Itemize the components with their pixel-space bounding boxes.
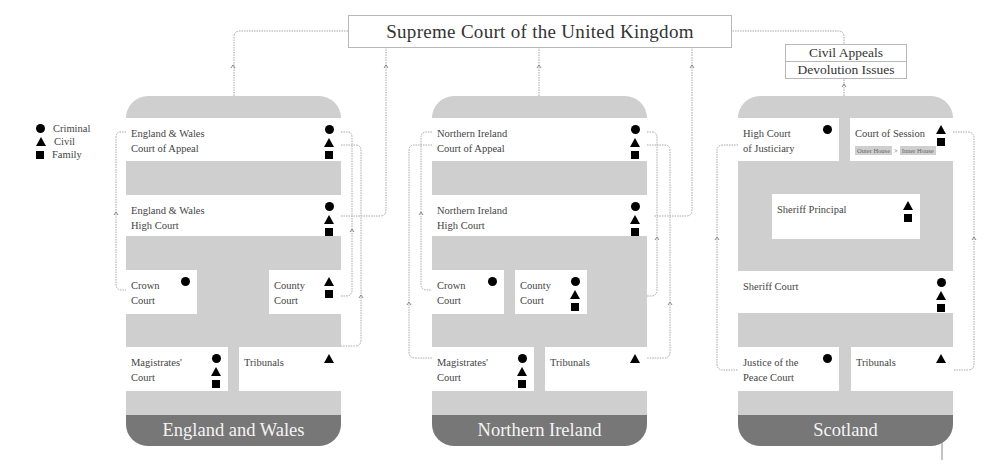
civil-icon [324,138,334,147]
family-icon [212,380,220,388]
ni-county-court: CountyCourt [515,270,587,314]
devolution-issues-label: Devolution Issues [786,61,906,78]
criminal-icon [631,202,640,211]
criminal-icon [518,354,527,363]
civil-icon [630,215,640,224]
criminal-icon [325,125,334,134]
jurisdiction-type-icons [630,125,640,163]
court-label-line: England & Wales [131,203,205,218]
triangle-icon [36,137,46,146]
criminal-icon [325,202,334,211]
jurisdiction-type-icons [903,201,913,226]
square-icon [36,151,44,159]
jurisdiction-type-icons [630,202,640,240]
legend-item-criminal: Criminal [36,122,90,135]
jurisdiction-type-icons [630,354,640,367]
court-label: Tribunals [856,355,896,370]
jurisdiction-type-icons [570,277,580,315]
court-label-line: Court [520,293,551,308]
criminal-icon [823,125,832,134]
court-label-line: Sheriff Principal [777,202,847,217]
court-label-line: Court [437,293,466,308]
jurisdiction-type-icons [936,354,946,367]
jurisdiction-type-icons [936,278,946,316]
court-label-line: Tribunals [244,355,284,370]
ew-high-court: England & WalesHigh Court [126,195,341,236]
family-icon [325,151,333,159]
court-label-line: High Court [437,218,507,233]
ew-court-of-appeal: England & WalesCourt of Appeal [126,118,341,161]
legend-item-civil: Civil [36,135,90,148]
ni-crown-court: CrownCourt [432,270,504,314]
court-label-line: Tribunals [856,355,896,370]
jurisdiction-type-icons [324,125,334,163]
court-label-line: Sheriff Court [743,279,799,294]
court-label-line: Crown [437,278,466,293]
panel-northern-ireland: Northern IrelandCourt of Appeal Northern… [432,96,647,446]
legend: Criminal Civil Family [36,122,90,161]
civil-icon [630,354,640,363]
jurisdiction-type-icons [822,125,832,138]
sc-high-court-justiciary: High Courtof Justiciary [738,118,839,161]
civil-icon [517,367,527,376]
court-label: CrownCourt [131,278,160,308]
criminal-icon [212,354,221,363]
family-icon [518,380,526,388]
court-label-line: Magistrates' [437,355,488,370]
court-label: High Courtof Justiciary [743,126,795,156]
family-icon [325,228,333,236]
court-label-line: Peace Court [743,370,798,385]
sc-sheriff-court: Sheriff Court [738,271,953,313]
court-label: Justice of thePeace Court [743,355,798,385]
ew-title-banner: England and Wales [126,415,341,446]
jurisdiction-type-icons [517,354,527,392]
jurisdiction-type-icons [936,125,946,150]
sc-court-of-session: Court of Session Outer House > Inner Hou… [850,118,953,161]
court-label: Northern IrelandHigh Court [437,203,507,233]
sc-justice-of-peace-court: Justice of thePeace Court [738,347,839,391]
jurisdiction-type-icons [180,277,190,290]
criminal-icon [571,277,580,286]
court-label-line: County [520,278,551,293]
panel-scotland: High Courtof Justiciary Court of Session… [738,96,953,446]
criminal-icon [823,354,832,363]
criminal-icon [488,277,497,286]
court-label-line: Crown [131,278,160,293]
court-of-session-houses: Outer House > Inner House [855,146,936,155]
court-label-line: Justice of the [743,355,798,370]
court-label-line: Court [131,370,182,385]
civil-icon [324,215,334,224]
civil-appeals-label: Civil Appeals [786,45,906,61]
family-icon [937,304,945,312]
chevron-right-icon: > [894,147,898,154]
court-label: Tribunals [244,355,284,370]
court-label-line: High Court [131,218,205,233]
outer-house-chip: Outer House [855,146,892,155]
civil-icon [211,367,221,376]
court-label: CountyCourt [520,278,551,308]
panel-england-wales: England & WalesCourt of Appeal England &… [126,96,341,446]
jurisdiction-type-icons [822,354,832,367]
ew-tribunals: Tribunals [239,347,341,391]
court-label-line: Court of Session [855,126,925,141]
legend-item-family: Family [36,148,90,161]
civil-icon [324,277,334,286]
civil-icon [903,201,913,210]
scotland-supreme-scope-box: Civil Appeals Devolution Issues [785,44,907,79]
family-icon [325,290,333,298]
court-label-line: High Court [743,126,795,141]
ew-magistrates-court: Magistrates'Court [126,347,228,391]
jurisdiction-type-icons [324,277,334,302]
sc-tribunals: Tribunals [851,347,953,391]
civil-icon [570,290,580,299]
ni-court-of-appeal: Northern IrelandCourt of Appeal [432,118,647,161]
family-icon [904,214,912,222]
court-label: England & WalesCourt of Appeal [131,126,205,156]
family-icon [631,228,639,236]
ew-county-court: CountyCourt [269,270,341,314]
civil-icon [936,125,946,134]
criminal-icon [937,278,946,287]
supreme-court-box: Supreme Court of the United Kingdom [348,15,732,48]
jurisdiction-type-icons [487,277,497,290]
ni-title-banner: Northern Ireland [432,415,647,446]
